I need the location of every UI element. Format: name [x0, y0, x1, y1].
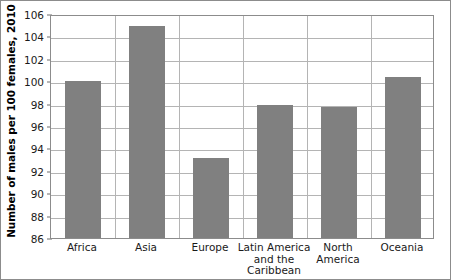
bars-layer	[51, 16, 433, 238]
bar-slot	[307, 16, 371, 238]
y-tick-label: 104	[24, 31, 44, 43]
bar-slot	[115, 16, 179, 238]
y-tick-label: 88	[31, 211, 44, 223]
plot-area	[50, 15, 434, 239]
bar[interactable]	[257, 105, 293, 238]
y-tick-label: 90	[31, 188, 44, 200]
bar[interactable]	[65, 81, 101, 238]
x-tick-label-line: Caribbean	[230, 265, 318, 277]
y-tick-label: 94	[31, 143, 44, 155]
y-tick-label: 100	[24, 76, 44, 88]
x-tick-label-line: Oceania	[358, 242, 446, 254]
y-tick-label: 106	[24, 9, 44, 21]
x-tick-label: Oceania	[358, 242, 446, 254]
bar[interactable]	[129, 26, 165, 238]
bar-slot	[243, 16, 307, 238]
bar[interactable]	[385, 77, 421, 238]
bar-slot	[51, 16, 115, 238]
y-tick-label: 92	[31, 166, 44, 178]
x-tick-label-line: America	[294, 254, 382, 266]
bar-slot	[179, 16, 243, 238]
y-tick-label: 96	[31, 121, 44, 133]
y-tick-label: 102	[24, 54, 44, 66]
y-axis-title: Number of males per 100 females, 2010	[1, 1, 21, 241]
y-tick-label: 98	[31, 99, 44, 111]
y-axis-title-text: Number of males per 100 females, 2010	[5, 4, 17, 238]
x-axis-tick-labels: AfricaAsiaEuropeLatin Americaand theCari…	[50, 242, 434, 280]
bar-chart-figure: Number of males per 100 females, 2010 10…	[0, 0, 451, 280]
bar[interactable]	[193, 158, 229, 238]
bar[interactable]	[321, 107, 357, 238]
bar-slot	[371, 16, 435, 238]
y-axis-tick-labels: 10610410210098969492908886	[19, 15, 47, 239]
